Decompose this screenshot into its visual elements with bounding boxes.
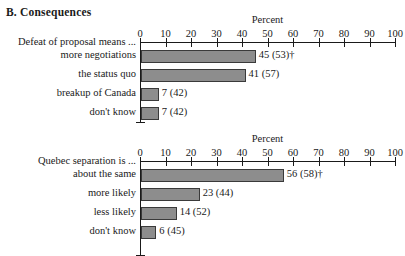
bar <box>141 50 256 63</box>
bar-category-label: less likely <box>0 206 136 217</box>
bar-value-label: 56 (58)† <box>287 168 323 179</box>
bar-category-label: don't know <box>0 106 136 117</box>
bar-row: more likely23 (44) <box>0 185 405 204</box>
bar <box>141 107 159 120</box>
x-tick-mark <box>268 38 269 47</box>
x-tick-mark <box>293 38 294 47</box>
x-tick-mark <box>370 157 371 166</box>
x-tick-mark <box>395 157 396 166</box>
x-axis-title: Percent <box>140 133 395 144</box>
bar <box>141 69 246 82</box>
chart-defeat-of-proposal: Percent 0102030405060708090100 Defeat of… <box>0 14 405 124</box>
x-tick-mark <box>293 157 294 166</box>
x-tick-mark <box>191 157 192 166</box>
bar-value-label: 7 (42) <box>162 87 187 98</box>
bar-category-label: more negotiations <box>0 49 136 60</box>
x-tick-mark <box>344 157 345 166</box>
bar-row: breakup of Canada7 (42) <box>0 85 405 104</box>
x-tick-mark <box>166 157 167 166</box>
bar-category-label: the status quo <box>0 68 136 79</box>
x-axis-line <box>140 42 395 43</box>
bar-value-label: 41 (57) <box>249 68 280 79</box>
bar-row: don't know6 (45) <box>0 223 405 242</box>
figure-panel-b: B. Consequences Percent 0102030405060708… <box>0 0 405 256</box>
bar-category-label: about the same <box>0 168 136 179</box>
x-tick-mark <box>191 38 192 47</box>
x-tick-mark <box>166 38 167 47</box>
bar-value-label: 23 (44) <box>203 187 234 198</box>
bar-rows: more negotiations45 (53)†the status quo4… <box>0 47 405 123</box>
x-tick-mark <box>217 157 218 166</box>
chart-quebec-separation: Percent 0102030405060708090100 Quebec se… <box>0 133 405 256</box>
x-tick-mark <box>319 157 320 166</box>
x-tick-mark <box>268 157 269 166</box>
x-tick-mark <box>242 38 243 47</box>
bar-value-label: 14 (52) <box>180 206 211 217</box>
bar <box>141 169 284 182</box>
bar-rows: about the same56 (58)†more likely23 (44)… <box>0 166 405 242</box>
bar-category-label: breakup of Canada <box>0 87 136 98</box>
bar-row: more negotiations45 (53)† <box>0 47 405 66</box>
bar-category-label: more likely <box>0 187 136 198</box>
bar-row: about the same56 (58)† <box>0 166 405 185</box>
bar-value-label: 7 (42) <box>162 106 187 117</box>
x-tick-mark <box>217 38 218 47</box>
x-tick-mark <box>395 38 396 47</box>
x-tick-mark <box>344 38 345 47</box>
bar-value-label: 45 (53)† <box>259 49 295 60</box>
bar <box>141 207 177 220</box>
chart-group-label: Defeat of proposal means ... <box>0 36 136 47</box>
bar-row: don't know7 (42) <box>0 104 405 123</box>
x-axis-line <box>140 161 395 162</box>
x-axis-title: Percent <box>140 14 395 25</box>
x-tick-mark <box>242 157 243 166</box>
bar <box>141 88 159 101</box>
bar-category-label: don't know <box>0 225 136 236</box>
bar-value-label: 6 (45) <box>159 225 184 236</box>
bar <box>141 188 200 201</box>
x-tick-mark <box>370 38 371 47</box>
chart-group-label: Quebec separation is ... <box>0 155 136 166</box>
bar <box>141 226 156 239</box>
bar-row: less likely14 (52) <box>0 204 405 223</box>
x-tick-mark <box>319 38 320 47</box>
bar-row: the status quo41 (57) <box>0 66 405 85</box>
